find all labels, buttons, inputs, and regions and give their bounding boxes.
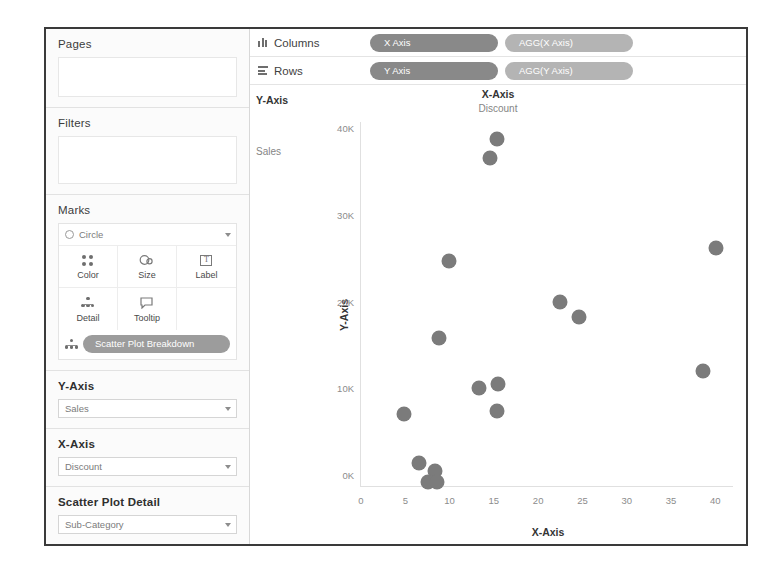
scatter-point[interactable] [571,310,586,325]
marks-tooltip-label: Tooltip [134,313,160,323]
parameter-scatter-detail-dropdown[interactable]: Sub-Category [58,515,237,534]
scatter-point[interactable] [489,132,504,147]
marks-card: Circle Color [58,223,237,360]
columns-shelf-pills: X Axis AGG(X Axis) [370,34,633,52]
marks-label-button[interactable]: T Label [177,246,236,288]
marks-title: Marks [58,204,237,216]
chevron-down-icon [225,465,231,469]
rows-icon [258,66,268,75]
pages-section: Pages [46,29,249,108]
rows-shelf[interactable]: Rows Y Axis AGG(Y Axis) [250,57,746,85]
scatter-point[interactable] [441,253,456,268]
x-axis-tick: 30 [621,495,632,506]
parameter-y-axis-dropdown[interactable]: Sales [58,399,237,418]
scatter-point[interactable] [430,475,445,490]
mark-type-dropdown[interactable]: Circle [59,224,236,246]
detail-icon [65,337,78,351]
columns-shelf-title: Columns [274,37,319,49]
color-icon [82,253,93,267]
chevron-down-icon [225,233,231,237]
marks-size-label: Size [138,270,156,280]
parameter-x-axis-section: X-Axis Discount [46,429,249,487]
left-panel: Pages Filters Marks Circle [46,29,250,544]
marks-detail-button[interactable]: Detail [59,288,118,330]
circle-icon [65,230,74,239]
x-axis-tick: 20 [533,495,544,506]
scatter-point[interactable] [411,456,426,471]
parameter-x-axis-value: Discount [65,461,102,472]
parameter-x-axis-dropdown[interactable]: Discount [58,457,237,476]
parameter-y-axis-section: Y-Axis Sales [46,371,249,429]
x-axis-title: X-Axis [360,526,736,538]
marks-tooltip-button[interactable]: Tooltip [118,288,177,330]
filters-section: Filters [46,108,249,195]
y-axis-tick: 30K [337,210,354,221]
parameter-scatter-detail-section: Scatter Plot Detail Sub-Category [46,487,249,544]
scatter-point[interactable] [491,376,506,391]
rows-shelf-pills: Y Axis AGG(Y Axis) [370,62,633,80]
scatter-point[interactable] [471,381,486,396]
pages-dropwell[interactable] [58,57,237,97]
x-axis-tick: 40 [710,495,721,506]
pill-columns-agg-x-axis[interactable]: AGG(X Axis) [505,34,633,52]
columns-shelf[interactable]: Columns X Axis AGG(X Axis) [250,29,746,57]
tooltip-icon [140,296,153,310]
x-axis-tick: 0 [358,495,363,506]
parameter-x-axis-title: X-Axis [58,438,237,450]
marks-empty-slot [177,288,236,330]
filters-title: Filters [58,117,237,129]
pill-scatter-plot-breakdown[interactable]: Scatter Plot Breakdown [83,335,230,353]
scatter-point[interactable] [396,407,411,422]
y-axis-tick: 40K [337,123,354,134]
pages-title: Pages [58,38,237,50]
marks-detail-pill-row: Scatter Plot Breakdown [59,330,236,359]
marks-detail-label: Detail [76,313,99,323]
x-axis-tick: 35 [666,495,677,506]
tableau-worksheet-window: Pages Filters Marks Circle [44,27,748,546]
parameter-y-axis-value: Sales [65,403,89,414]
rows-shelf-title: Rows [274,65,303,77]
marks-label-label: Label [195,270,217,280]
y-axis-tick: 10K [337,383,354,394]
parameter-y-axis-title: Y-Axis [58,380,237,392]
x-axis-tick: 15 [489,495,500,506]
column-header-discount: Discount [250,103,746,114]
label-icon: T [200,253,212,267]
size-icon [139,253,154,267]
scatter-plot-view: Y-Axis Sales X-Axis Discount Y-Axis X-Ax… [250,86,746,544]
pill-rows-agg-y-axis[interactable]: AGG(Y Axis) [505,62,633,80]
rows-shelf-label: Rows [258,65,370,77]
scatter-point[interactable] [431,330,446,345]
viz-panel: Columns X Axis AGG(X Axis) Rows Y Axis A… [250,29,746,544]
y-axis-tick: 20K [337,296,354,307]
plot-area[interactable]: 0K10K20K30K40K0510152025303540 [360,122,733,487]
pill-columns-x-axis[interactable]: X Axis [370,34,498,52]
detail-icon [81,296,94,310]
marks-buttons: Color Size T [59,246,236,330]
parameter-scatter-detail-value: Sub-Category [65,519,124,530]
scatter-point[interactable] [695,363,710,378]
marks-size-button[interactable]: Size [118,246,177,288]
column-caption: X-Axis [250,88,746,100]
row-header-sales: Sales [256,146,281,157]
pill-rows-y-axis[interactable]: Y Axis [370,62,498,80]
parameter-scatter-detail-title: Scatter Plot Detail [58,496,237,508]
marks-section: Marks Circle Color [46,195,249,371]
x-axis-tick: 10 [444,495,455,506]
chevron-down-icon [225,407,231,411]
y-axis-tick: 0K [342,470,354,481]
x-axis-tick: 25 [577,495,588,506]
scatter-point[interactable] [483,151,498,166]
scatter-point[interactable] [709,240,724,255]
filters-dropwell[interactable] [58,136,237,184]
scatter-point[interactable] [553,295,568,310]
columns-shelf-label: Columns [258,37,370,49]
marks-color-button[interactable]: Color [59,246,118,288]
chevron-down-icon [225,523,231,527]
columns-icon [258,38,268,47]
marks-color-label: Color [77,270,99,280]
x-axis-tick: 5 [403,495,408,506]
mark-type-value: Circle [79,229,103,240]
scatter-point[interactable] [490,403,505,418]
